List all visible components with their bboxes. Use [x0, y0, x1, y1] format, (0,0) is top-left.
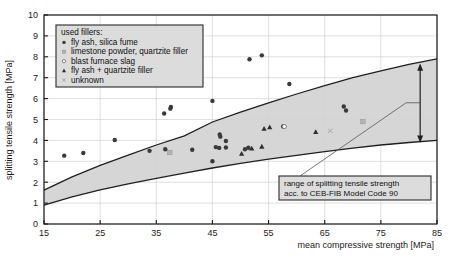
data-point [62, 153, 66, 157]
callout-line-2: acc. to CEB-FIB Model Code 90 [284, 189, 398, 198]
data-point [167, 150, 172, 155]
legend-label: fly ash, silica fume [71, 38, 138, 47]
data-point [190, 148, 194, 152]
x-axis-title: mean compressive strength [MPa] [297, 240, 434, 250]
callout-line-1: range of splitting tensile strength [284, 179, 399, 188]
y-tick-label: 10 [28, 10, 38, 20]
legend-marker-filled-circle [62, 41, 65, 44]
data-point [113, 138, 117, 142]
data-point [224, 139, 228, 143]
chart-figure: 1525354555657585 012345678910 mean compr… [0, 0, 449, 267]
legend-label: blast furnace slag [71, 57, 136, 66]
data-point [287, 82, 291, 86]
series-blast-furnace-slag [282, 125, 286, 129]
data-point [217, 146, 221, 150]
legend-title: used fillers: [61, 28, 102, 37]
callout-annotation: range of splitting tensile strength acc.… [279, 176, 431, 200]
legend-label: unknown [71, 76, 104, 85]
y-tick-label: 4 [33, 136, 38, 146]
y-tick-label: 1 [33, 198, 38, 208]
y-tick-label: 5 [33, 115, 38, 125]
data-point [210, 159, 214, 163]
data-point [361, 119, 366, 124]
data-point [218, 134, 222, 138]
legend-marker-filled-square [62, 50, 66, 54]
data-point [169, 105, 173, 109]
legend-label: limestone powder, quartzite filler [71, 47, 188, 56]
x-tick-label: 75 [376, 228, 386, 238]
data-point [282, 125, 286, 129]
data-point [247, 57, 251, 61]
legend-label: fly ash + quartzite filler [71, 66, 153, 75]
x-tick-label: 15 [39, 228, 49, 238]
x-tick-label: 35 [151, 228, 161, 238]
legend: used fillers: fly ash, silica fumelimest… [56, 25, 203, 87]
y-tick-label: 0 [33, 219, 38, 229]
y-tick-label: 3 [33, 157, 38, 167]
data-point [163, 147, 167, 151]
data-point [344, 108, 348, 112]
data-point [342, 104, 346, 108]
y-tick-label: 7 [33, 73, 38, 83]
x-axis-tick-labels: 1525354555657585 [39, 228, 442, 238]
x-tick-label: 25 [95, 228, 105, 238]
y-axis-title: splitting tensile strength [MPa] [4, 60, 14, 180]
scatter-plot: 1525354555657585 012345678910 mean compr… [0, 0, 449, 267]
data-point [162, 111, 166, 115]
x-tick-label: 65 [320, 228, 330, 238]
data-point [147, 149, 151, 153]
y-tick-label: 9 [33, 31, 38, 41]
legend-marker-open-circle [62, 60, 65, 63]
y-tick-label: 2 [33, 178, 38, 188]
y-axis-tick-labels: 012345678910 [28, 10, 38, 229]
data-point [210, 99, 214, 103]
x-tick-label: 85 [432, 228, 442, 238]
y-tick-label: 6 [33, 94, 38, 104]
x-tick-label: 45 [207, 228, 217, 238]
x-tick-label: 55 [264, 228, 274, 238]
data-point [81, 151, 85, 155]
y-tick-label: 8 [33, 52, 38, 62]
data-point [260, 53, 264, 57]
data-point [224, 145, 228, 149]
